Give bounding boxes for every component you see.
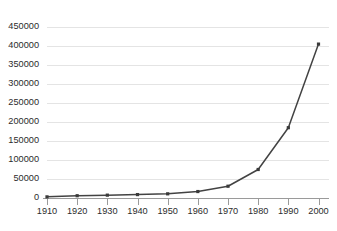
data-point-marker [196,190,199,193]
y-tick-label: 250000 [8,97,39,107]
y-tick-label: 400000 [8,40,39,50]
data-point-marker [76,194,79,197]
y-tick-label: 0 [34,192,39,202]
series-line [47,44,319,197]
data-point-marker [106,194,109,197]
x-tick-label: 2000 [308,206,328,216]
data-point-marker [226,185,229,188]
x-tick-label: 1910 [37,206,57,216]
y-tick-label: 350000 [8,59,39,69]
y-axis-tick-labels: 0500001000001500002000002500003000003500… [8,21,39,202]
y-tick-label: 50000 [13,173,39,183]
x-tick-label: 1980 [248,206,268,216]
x-axis-tick-labels: 1910192019301940195019601970198019902000 [37,206,329,216]
x-tick-label: 1920 [67,206,87,216]
data-point-marker [136,193,139,196]
x-tick-label: 1950 [157,206,177,216]
x-tick-label: 1970 [218,206,238,216]
data-point-marker [45,195,48,198]
x-tick-label: 1940 [127,206,147,216]
chart-container: 0500001000001500002000002500003000003500… [0,0,337,231]
x-axis-tick-marks [48,199,320,205]
x-tick-label: 1930 [97,206,117,216]
y-tick-label: 450000 [8,21,39,31]
gridlines [47,28,329,180]
data-point-marker [166,192,169,195]
x-tick-label: 1990 [278,206,298,216]
y-tick-label: 200000 [8,116,39,126]
line-chart: 0500001000001500002000002500003000003500… [0,0,337,231]
data-point-marker [257,168,260,171]
y-tick-label: 100000 [8,154,39,164]
y-tick-label: 150000 [8,135,39,145]
data-point-marker [287,126,290,129]
data-point-marker [317,43,320,46]
y-tick-label: 300000 [8,78,39,88]
x-tick-label: 1960 [188,206,208,216]
